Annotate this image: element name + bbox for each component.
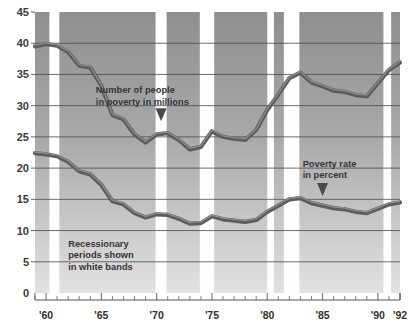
y-tick-label-0: 0 [23,287,29,299]
y-tick-label-20: 20 [17,162,29,174]
chart-canvas: 051015202530354045 '60'65'70'75'80'85'90… [0,0,414,336]
y-tick-label-10: 10 [17,225,29,237]
recession-note-line-3: in white bands [68,262,133,272]
y-tick-label-35: 35 [17,68,29,80]
recession-band-2 [200,12,214,293]
recession-band-3 [267,12,274,293]
rate-annotation-line-1: Poverty rate [303,159,357,169]
people-annotation-line-2: in poverty in millions [96,97,189,107]
y-tick-label-5: 5 [23,256,29,268]
people-annotation-line-1: Number of people [96,85,175,95]
x-tick-label-1985: '85 [315,309,329,321]
recession-band-4 [284,12,299,293]
recession-band-1 [156,12,167,293]
recession-note-line-1: Recessionary [68,239,129,249]
x-tick-label-1990: '90 [371,309,385,321]
recession-band-5 [383,12,391,293]
y-tick-label-30: 30 [17,100,29,112]
y-tick-label-15: 15 [17,193,29,205]
x-tick-label-1975: '75 [205,309,219,321]
y-tick-label-40: 40 [17,37,29,49]
x-tick-label-1960: '60 [39,309,53,321]
x-tick-label-1965: '65 [94,309,108,321]
y-tick-label-25: 25 [17,131,29,143]
x-tick-label-1970: '70 [150,309,164,321]
recession-band-0 [49,12,59,293]
poverty-chart: 051015202530354045 '60'65'70'75'80'85'90… [0,0,414,336]
recession-note-line-2: periods shown [68,250,134,260]
rate-annotation-line-2: in percent [303,170,347,180]
x-tick-label-1992: '92 [393,309,407,321]
x-tick-label-1980: '80 [260,309,274,321]
y-tick-label-45: 45 [17,6,29,18]
